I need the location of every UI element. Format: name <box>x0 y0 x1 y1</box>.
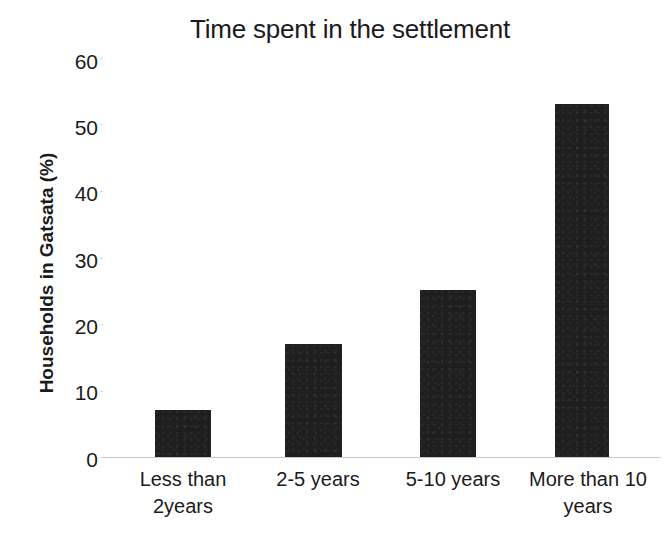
chart-title: Time spent in the settlement <box>120 14 580 45</box>
x-label-line-1: More than 10 <box>513 466 663 493</box>
y-tick-mark-30 <box>100 258 103 259</box>
x-label-5-10-years: 5-10 years <box>383 466 523 493</box>
x-label-line-1: 5-10 years <box>383 466 523 493</box>
x-label-more-than-10-years: More than 10 years <box>513 466 663 520</box>
bar-5-10-years <box>420 290 476 457</box>
bar-more-than-10-years <box>555 104 609 457</box>
x-label-line-1: Less than <box>111 466 255 493</box>
x-axis-line <box>101 457 661 458</box>
y-tick-mark-60 <box>100 58 103 59</box>
x-label-less-than-2years: Less than 2years <box>111 466 255 520</box>
bar-2-5-years <box>285 344 342 457</box>
y-tick-mark-20 <box>100 324 103 325</box>
bar-chart-figure: Time spent in the settlement Households … <box>0 0 672 557</box>
plot-area <box>101 58 661 458</box>
x-label-line-2: 2years <box>111 493 255 520</box>
x-label-line-2: years <box>513 493 663 520</box>
x-label-line-1: 2-5 years <box>246 466 390 493</box>
x-label-2-5-years: 2-5 years <box>246 466 390 493</box>
y-axis-title: Households in Gatsata (%) <box>36 113 58 433</box>
y-tick-mark-40 <box>100 191 103 192</box>
y-tick-mark-10 <box>100 391 103 392</box>
x-axis-category-labels: Less than 2years 2-5 years 5-10 years Mo… <box>101 466 661 550</box>
y-tick-label-60: 60 <box>46 51 98 72</box>
y-tick-mark-50 <box>100 124 103 125</box>
bar-less-than-2years <box>155 410 211 457</box>
y-tick-label-0: 0 <box>46 449 98 470</box>
